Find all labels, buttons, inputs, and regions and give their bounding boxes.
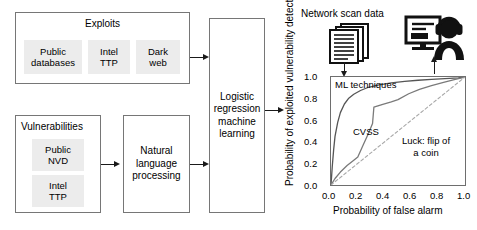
arrow-exploits-to-model-line	[190, 57, 204, 58]
natural-language-processing-box: Natural language processing	[123, 115, 190, 213]
analyst-monitor-headset-icon	[404, 14, 466, 62]
exploits-group-title: Exploits	[15, 18, 190, 30]
chart-ylabel: Probability of exploited vulnerability d…	[284, 0, 295, 186]
arrow-model-to-chart-line	[265, 110, 279, 111]
chart-xtick-5: 1.0	[457, 191, 470, 201]
chart-xlabel: Probability of false alarm	[333, 205, 443, 216]
chart-ytick-1: 0.2	[304, 159, 317, 169]
chart-ytick-2: 0.4	[304, 137, 317, 147]
chart-ytick-4: 0.8	[304, 94, 317, 104]
documents-stack-icon	[327, 22, 371, 64]
chart-xtick-4: 0.8	[430, 191, 443, 201]
arrow-vulnerabilities-to-nlp-head	[114, 161, 120, 167]
vulnerabilities-source-intel-ttp: Intel TTP	[32, 175, 84, 207]
chart-xtick-3: 0.6	[403, 191, 416, 201]
arrow-nlp-to-model-line	[190, 164, 204, 165]
exploits-source-public-databases: Public databases	[24, 40, 82, 74]
curve-label-ml-techniques: ML techniques	[335, 79, 396, 90]
curve-label-luck: Luck: flip of a coin	[400, 135, 452, 159]
logistic-regression-model-box: Logistic regression machine learning	[209, 18, 265, 213]
chart-ytick-0: 0.0	[304, 181, 317, 191]
roc-curves	[331, 77, 465, 185]
exploits-source-dark-web: Dark web	[136, 40, 180, 74]
arrow-vulnerabilities-to-nlp-line	[101, 164, 115, 165]
network-scan-data-caption: Network scan data	[301, 8, 384, 20]
exploits-source-intel-ttp: Intel TTP	[88, 40, 130, 74]
arrow-chart-to-analyst-line	[434, 62, 435, 74]
diagram-canvas: Exploits Public databases Intel TTP Dark…	[0, 0, 477, 230]
chart-xtick-0: 0.0	[322, 191, 335, 201]
chart-xtick-2: 0.4	[376, 191, 389, 201]
chart-ytick-5: 1.0	[304, 72, 317, 82]
curve-label-cvss: CVSS	[353, 126, 379, 137]
chart-xtick-1: 0.2	[349, 191, 362, 201]
roc-chart-plot-area	[330, 76, 466, 186]
vulnerabilities-source-public-nvd: Public NVD	[32, 139, 84, 171]
vulnerabilities-group-title: Vulnerabilities	[21, 121, 83, 133]
chart-ytick-3: 0.6	[304, 116, 317, 126]
roc-series-2	[331, 77, 465, 185]
arrow-chart-to-analyst-head	[431, 56, 437, 62]
